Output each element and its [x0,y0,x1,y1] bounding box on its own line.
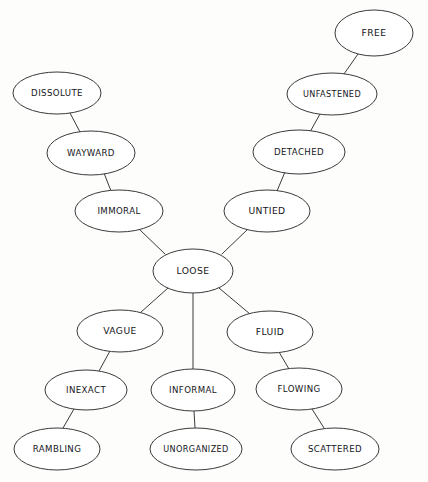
node-unfastened[interactable]: UNFASTENED [287,73,377,115]
node-label-immoral: IMMORAL [97,206,140,216]
node-wayward[interactable]: WAYWARD [47,131,135,175]
edge-untied-loose [222,229,248,254]
node-label-scattered: SCATTERED [308,444,362,454]
node-inexact[interactable]: INEXACT [45,370,127,410]
node-scattered[interactable]: SCATTERED [291,428,379,470]
node-flowing[interactable]: FLOWING [256,368,342,410]
node-label-untied: UNTIED [248,205,285,216]
node-unorganized[interactable]: UNORGANIZED [150,428,242,470]
edge-flowing-scattered [312,409,324,428]
edge-detached-untied [277,172,285,191]
node-fluid[interactable]: FLUID [227,311,313,353]
concept-map-canvas: FREEUNFASTENEDDETACHEDUNTIEDDISSOLUTEWAY… [0,0,428,482]
edge-unfastened-detached [310,114,320,132]
node-label-unfastened: UNFASTENED [303,89,361,99]
edge-informal-unorganized [194,411,195,428]
node-label-flowing: FLOWING [277,384,320,394]
node-detached[interactable]: DETACHED [253,130,345,174]
node-label-informal: INFORMAL [169,385,217,395]
node-immoral[interactable]: IMMORAL [75,190,163,232]
node-label-unorganized: UNORGANIZED [163,444,229,454]
node-label-loose: LOOSE [177,265,210,276]
node-label-dissolute: DISSOLUTE [31,88,83,98]
node-label-rambling: RAMBLING [33,444,81,454]
edge-free-unfastened [344,54,358,74]
edge-loose-vague [140,288,168,313]
edge-vague-inexact [99,351,110,371]
edge-dissolute-wayward [70,113,80,132]
node-free[interactable]: FREE [335,10,413,56]
edge-immoral-loose [139,229,165,254]
node-dissolute[interactable]: DISSOLUTE [13,72,101,114]
node-label-vague: VAGUE [103,325,136,336]
edge-inexact-rambling [63,409,74,428]
node-loose[interactable]: LOOSE [153,249,233,293]
node-vague[interactable]: VAGUE [77,310,163,352]
node-untied[interactable]: UNTIED [224,190,310,232]
node-label-inexact: INEXACT [66,385,106,395]
edge-loose-fluid [219,288,250,314]
node-label-fluid: FLUID [256,326,284,337]
node-rambling[interactable]: RAMBLING [14,428,100,470]
node-label-wayward: WAYWARD [67,148,115,158]
nodes-layer: FREEUNFASTENEDDETACHEDUNTIEDDISSOLUTEWAY… [13,10,413,470]
edge-wayward-immoral [104,173,111,191]
edge-fluid-flowing [279,352,289,369]
node-label-detached: DETACHED [274,147,324,157]
node-informal[interactable]: INFORMAL [151,369,235,411]
concept-map-graph: FREEUNFASTENEDDETACHEDUNTIEDDISSOLUTEWAY… [0,0,428,482]
node-label-free: FREE [362,27,387,38]
